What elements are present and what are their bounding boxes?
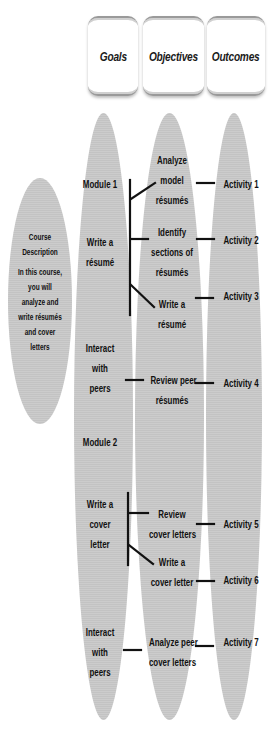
header-outcomes-label: Outcomes [212, 49, 260, 64]
goal-interact-peers-2: Interact with peers [74, 622, 126, 682]
course-desc-line: and cover [17, 325, 63, 340]
header-goals-label: Goals [99, 49, 126, 64]
course-title-2: Description [17, 245, 63, 260]
outcome-activity-2: Activity 2 [223, 230, 259, 250]
course-desc-line: write résumés [17, 310, 63, 325]
header-outcomes: Outcomes [207, 16, 265, 96]
course-title-1: Course [17, 230, 63, 245]
objective-analyze-model-resumes: Analyze model résumés [142, 150, 202, 210]
course-desc-line: you will [17, 280, 63, 295]
course-desc-line: In this course, [17, 265, 63, 280]
header-goals: Goals [88, 16, 138, 96]
course-description: Course Description In this course, you w… [8, 230, 72, 355]
outcome-activity-1: Activity 1 [223, 174, 259, 194]
outcome-activity-3: Activity 3 [223, 286, 259, 306]
outcome-activity-4: Activity 4 [223, 373, 259, 393]
outcome-activity-7: Activity 7 [223, 632, 259, 652]
objective-write-resume: Write a résumé [142, 294, 202, 334]
outcomes-ellipse [206, 113, 262, 720]
objective-review-peer-resumes: Review peer résumés [142, 370, 202, 410]
header-objectives-label: Objectives [149, 49, 198, 64]
course-desc-line: letters [17, 340, 63, 355]
outcome-activity-6: Activity 6 [223, 570, 259, 590]
objective-write-cover-letter: Write a cover letter [140, 552, 204, 592]
goal-write-cover-letter: Write a cover letter [74, 494, 126, 554]
objective-identify-sections: Identify sections of résumés [142, 222, 202, 282]
goal-interact-peers-1: Interact with peers [74, 338, 126, 398]
goal-module-2: Module 2 [81, 432, 118, 452]
outcome-activity-5: Activity 5 [223, 514, 259, 534]
objective-analyze-peer-cover-letters: Analyze peer cover letters [140, 632, 204, 672]
objective-review-cover-letters: Review cover letters [140, 504, 204, 544]
header-objectives: Objectives [143, 16, 204, 96]
goal-module-1: Module 1 [81, 174, 118, 194]
goal-write-resume: Write a résumé [74, 232, 126, 272]
course-desc-line: analyze and [17, 295, 63, 310]
